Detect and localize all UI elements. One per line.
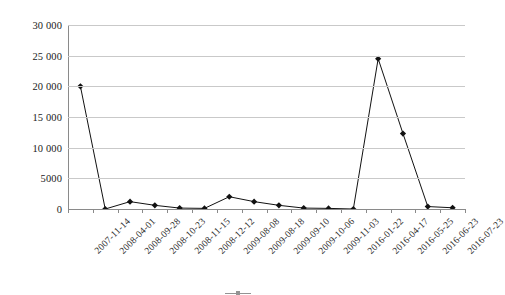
x-axis-tick — [267, 209, 268, 213]
y-axis-tick-label: 25 000 — [33, 50, 62, 61]
y-axis-tick-label: 0 — [57, 204, 62, 215]
gridline — [68, 25, 465, 26]
x-axis-tick-label: 2008-12-12 — [217, 216, 257, 256]
x-axis-tick — [316, 209, 317, 213]
x-axis-tick-label: 2009-08-18 — [267, 216, 307, 256]
x-axis-tick-label: 2016-05-25 — [416, 216, 456, 256]
x-axis-tick-label: 2008-10-23 — [167, 216, 207, 256]
x-axis-tick — [366, 209, 367, 213]
x-axis-tick-label: 2016-04-17 — [391, 216, 431, 256]
data-point-marker — [425, 203, 431, 209]
data-point-marker — [127, 199, 133, 205]
x-axis-tick-label: 2009-10-06 — [316, 216, 356, 256]
legend-line-marker-icon — [225, 293, 251, 294]
chart-caption — [0, 286, 480, 295]
data-point-marker — [301, 205, 307, 209]
x-axis-tick-label: 2016-01-22 — [366, 216, 406, 256]
gridline — [68, 117, 465, 118]
x-axis-tick-label: 2009-09-10 — [291, 216, 331, 256]
x-axis-tick — [167, 209, 168, 213]
data-point-marker — [177, 205, 183, 209]
data-point-marker — [226, 194, 232, 200]
gridline — [68, 178, 465, 179]
gridline — [68, 148, 465, 149]
y-axis-tick-label: 15 000 — [33, 112, 62, 123]
data-point-marker — [400, 130, 406, 136]
x-axis-tick-label: 2009-08-08 — [242, 216, 282, 256]
x-axis-tick — [217, 209, 218, 213]
gridline — [68, 56, 465, 57]
x-axis-tick — [440, 209, 441, 213]
x-axis-tick-label: 2016-07-23 — [465, 216, 505, 256]
data-point-marker — [276, 202, 282, 208]
y-axis-tick-label: 5000 — [41, 173, 62, 184]
y-axis-label-group: 0500010 00015 00020 00025 00030 000 — [0, 0, 62, 295]
x-axis-tick-label: 2007-11-14 — [93, 216, 133, 256]
data-point-marker — [152, 202, 158, 208]
x-axis-tick — [465, 209, 466, 213]
data-point-marker — [102, 206, 108, 209]
data-point-marker — [449, 205, 455, 209]
x-axis-tick — [291, 209, 292, 213]
series-line — [80, 59, 452, 209]
x-axis-tick-label: 2008-09-28 — [143, 216, 183, 256]
x-axis-tick — [415, 209, 416, 213]
data-point-marker — [350, 206, 356, 209]
x-axis-tick — [391, 209, 392, 213]
x-axis-tick-label: 2016-06-23 — [440, 216, 480, 256]
x-axis-tick — [118, 209, 119, 213]
x-axis-tick — [192, 209, 193, 213]
data-point-marker — [251, 199, 257, 205]
x-axis-tick-label: 2008-11-15 — [192, 216, 232, 256]
x-axis-tick — [242, 209, 243, 213]
x-axis-tick-label: 2008-04-01 — [118, 216, 158, 256]
x-axis-tick — [341, 209, 342, 213]
x-axis-tick — [93, 209, 94, 213]
y-axis-tick-label: 30 000 — [33, 20, 62, 31]
y-axis-tick-label: 20 000 — [33, 81, 62, 92]
x-axis-tick — [142, 209, 143, 213]
plot-area — [68, 25, 465, 209]
x-axis-tick-label: 2009-11-03 — [341, 216, 381, 256]
gridline — [68, 86, 465, 87]
data-point-marker — [325, 205, 331, 209]
y-axis-tick-label: 10 000 — [33, 142, 62, 153]
x-axis-tick — [68, 209, 69, 213]
